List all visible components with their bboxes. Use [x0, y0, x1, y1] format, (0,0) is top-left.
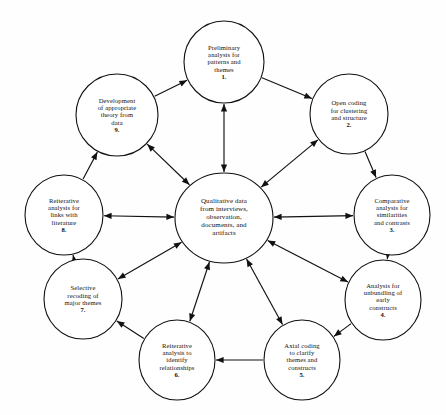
ring-edge-node-9-to-node-1 [155, 80, 187, 96]
node-1-circle[interactable] [184, 21, 264, 103]
ring-edge-node-5-to-node-6 [216, 357, 263, 363]
arrowhead-to-center [274, 214, 282, 220]
ring-edge-node-1-to-node-2 [262, 78, 312, 99]
ring-edge-node-4-to-node-5 [334, 324, 351, 337]
arrowhead-to-center [221, 164, 227, 172]
spoke-edge-center-to-node-6 [189, 262, 210, 321]
node-7-circle[interactable] [44, 259, 122, 339]
arrowhead-to-center [166, 214, 174, 220]
node-9-circle[interactable] [76, 74, 158, 156]
spoke-edge-center-to-node-7 [118, 242, 182, 279]
arrowhead-to-node-7 [117, 321, 125, 328]
diagram-svg [0, 0, 446, 415]
spoke-edge-center-to-node-4 [268, 240, 348, 281]
node-8-circle[interactable] [25, 175, 103, 255]
arrowhead-to-node-6 [189, 313, 195, 321]
arrowhead-to-node-6 [216, 357, 224, 363]
node-2-circle[interactable] [310, 74, 388, 154]
spoke-edge-center-to-node-3 [274, 213, 353, 220]
spoke-edge-center-to-node-5 [247, 259, 283, 324]
arrowhead-to-node-7 [118, 272, 126, 278]
ring-edge-node-2-to-node-3 [365, 152, 376, 178]
spoke-edge-center-to-node-8 [104, 213, 174, 220]
node-3-circle[interactable] [354, 175, 430, 255]
center-node-circle[interactable] [175, 173, 273, 263]
arrowhead-to-node-5 [334, 329, 342, 336]
diagram-canvas: Preliminaryanalysis forpatterns andtheme… [0, 0, 446, 415]
node-6-circle[interactable] [139, 320, 215, 400]
ring-edge-node-6-to-node-7 [117, 321, 144, 339]
arrowhead-to-center [173, 242, 181, 248]
arrowhead-to-center [204, 262, 210, 270]
node-4-circle[interactable] [345, 260, 421, 340]
ring-edge-node-8-to-node-9 [83, 152, 97, 179]
spoke-edge-center-to-node-9 [147, 144, 189, 185]
arrowhead-to-node-8 [104, 213, 112, 219]
arrowhead-to-node-1 [221, 104, 227, 112]
arrowhead-to-node-2 [304, 93, 312, 99]
node-5-circle[interactable] [264, 320, 340, 400]
nodes-layer [25, 21, 430, 400]
arrowhead-to-node-3 [370, 169, 376, 177]
spoke-edge-center-to-node-2 [261, 140, 318, 187]
arrowhead-to-node-3 [345, 213, 353, 219]
spoke-edge-center-to-node-1 [221, 104, 227, 172]
